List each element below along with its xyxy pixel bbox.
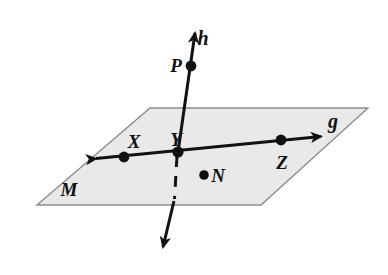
line-g-label: g <box>327 110 338 133</box>
point-p-dot <box>186 61 197 72</box>
line-h-label: h <box>197 27 208 49</box>
geometry-diagram-canvas: h P X Y Z N g M <box>0 0 388 275</box>
point-z-label: Z <box>275 152 288 173</box>
point-p-label: P <box>169 55 182 76</box>
point-x-dot <box>119 152 130 163</box>
line-h-lower-ray <box>163 201 174 247</box>
plane-m-surface <box>37 108 368 205</box>
point-n-label: N <box>210 165 226 186</box>
point-n-dot <box>199 170 209 180</box>
plane-m-label: M <box>60 179 79 200</box>
point-z-dot <box>276 135 287 146</box>
point-x-label: X <box>127 131 142 152</box>
geometry-figure: h P X Y Z N g M <box>0 0 388 275</box>
